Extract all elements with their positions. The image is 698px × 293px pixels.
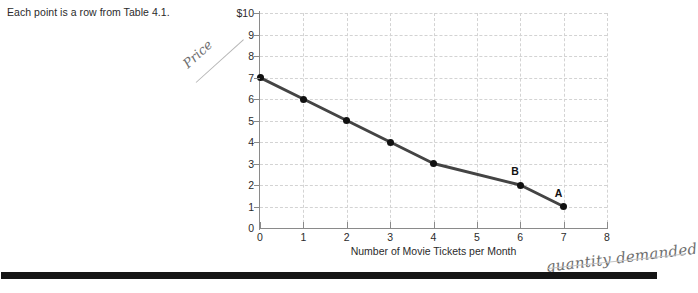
x-axis-tick: [260, 222, 261, 228]
y-axis-tick: [254, 13, 260, 14]
x-axis-tick-label: 4: [419, 231, 449, 243]
x-axis-tick: [607, 222, 608, 228]
x-axis-title: Number of Movie Tickets per Month: [260, 245, 607, 257]
y-axis-tick: [254, 164, 260, 165]
data-point: [300, 96, 307, 103]
y-axis-tick: [254, 35, 260, 36]
y-axis-tick-label: 3: [210, 158, 254, 170]
y-axis-tick: [254, 121, 260, 122]
x-axis-tick-label: 2: [332, 231, 362, 243]
y-axis-tick: [254, 185, 260, 186]
y-axis-tick-label: 6: [210, 93, 254, 105]
y-axis-tick-label: 5: [210, 115, 254, 127]
x-axis-line: [259, 228, 608, 229]
plot-area: BA: [260, 13, 607, 228]
y-axis-tick-label: 2: [210, 179, 254, 191]
bottom-divider-bar: [1, 272, 657, 279]
data-point: [387, 139, 394, 146]
y-axis-tick: [254, 99, 260, 100]
data-point: [517, 182, 524, 189]
y-axis-tick: [254, 78, 260, 79]
x-axis-tick: [347, 222, 348, 228]
x-axis-tick-label: 5: [462, 231, 492, 243]
y-axis-tick-label: $10: [210, 7, 254, 19]
y-axis-tick: [254, 142, 260, 143]
y-axis-tick-label: 9: [210, 29, 254, 41]
y-axis-tick-label: 7: [210, 72, 254, 84]
x-axis-tick-label: 1: [288, 231, 318, 243]
x-axis-tick: [477, 222, 478, 228]
y-axis-tick-label: 1: [210, 201, 254, 213]
x-axis-tick-label: 7: [549, 231, 579, 243]
data-point-label-a: A: [555, 187, 563, 199]
x-axis-tick: [390, 222, 391, 228]
y-axis-tick-label: 8: [210, 50, 254, 62]
y-axis-tick: [254, 207, 260, 208]
gridline-vertical: [607, 13, 608, 228]
data-point-label-b: B: [511, 165, 519, 177]
y-axis-tick-label: 0: [210, 222, 254, 234]
x-axis-tick: [520, 222, 521, 228]
data-point: [430, 160, 437, 167]
y-axis-tick: [254, 56, 260, 57]
x-axis-tick: [303, 222, 304, 228]
x-axis-tick: [434, 222, 435, 228]
x-axis-tick-label: 6: [505, 231, 535, 243]
x-axis-tick: [564, 222, 565, 228]
y-axis-tick-label: 4: [210, 136, 254, 148]
demand-curve-chart: Price Price of Movie Tickets BA 01234567…: [0, 0, 692, 265]
x-axis-tick-label: 3: [375, 231, 405, 243]
x-axis-tick-label: 8: [592, 231, 622, 243]
